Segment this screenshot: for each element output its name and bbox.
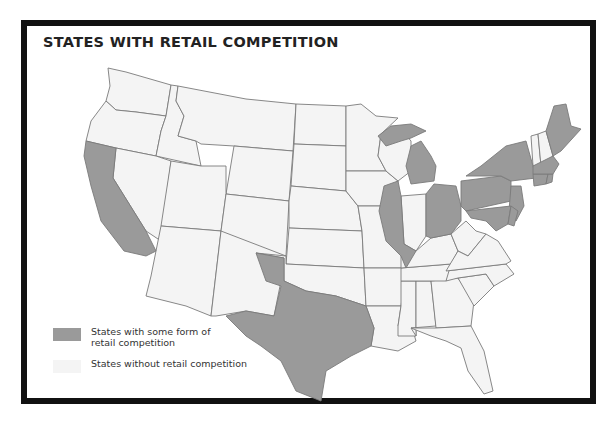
legend-item-competition: States with some form of retail competit… — [53, 326, 261, 348]
legend-label-no-competition: States without retail competition — [91, 358, 261, 369]
state-FL — [411, 326, 493, 394]
state-UT — [161, 161, 226, 231]
map-frame: STATES WITH RETAIL COMPETITION — [21, 20, 596, 404]
state-SD — [291, 144, 346, 191]
state-MI-lower — [406, 141, 436, 184]
state-WY — [226, 146, 293, 201]
state-NY — [466, 141, 536, 181]
state-IN — [401, 194, 426, 251]
state-AR — [364, 268, 406, 306]
legend-swatch-competition — [53, 328, 81, 341]
state-PA — [461, 176, 511, 211]
legend-item-no-competition: States without retail competition — [53, 358, 261, 373]
legend-swatch-no-competition — [53, 360, 81, 373]
legend: States with some form of retail competit… — [53, 326, 261, 383]
state-WA — [106, 68, 171, 116]
state-AZ — [146, 226, 221, 316]
state-ME — [546, 104, 581, 156]
state-ND — [294, 104, 346, 146]
state-KS — [286, 228, 364, 268]
legend-label-competition: States with some form of retail competit… — [91, 326, 221, 348]
